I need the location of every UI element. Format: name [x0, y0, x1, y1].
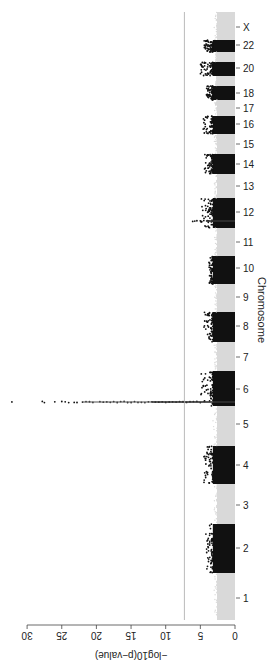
chromosome-band-4: [213, 446, 235, 484]
chromosome-band-17: [217, 100, 235, 116]
chromosome-band-20: [213, 62, 235, 76]
chromosome-band-18: [213, 86, 235, 100]
chromosome-band-10: [213, 256, 235, 284]
y-tick-label: 10: [160, 630, 172, 641]
x-tick-label-chr14: 14: [243, 159, 255, 170]
x-tick-label-chr5: 5: [243, 419, 249, 430]
x-tick-label-chr3: 3: [243, 500, 249, 511]
chromosome-band-22: [213, 40, 235, 52]
chromosome-band-16: [213, 116, 235, 134]
chromosome-band-21: [217, 52, 235, 62]
x-tick-label-chr8: 8: [243, 321, 249, 332]
x-tick-label-chr22: 22: [243, 40, 255, 51]
y-axis-label: −log10(p−value): [95, 650, 167, 661]
y-axis: 051015202530: [21, 625, 238, 641]
x-tick-label-chr18: 18: [243, 88, 255, 99]
chromosome-band-14: [213, 154, 235, 174]
chromosome-band-7: [217, 342, 235, 371]
x-tick-label-chr20: 20: [243, 63, 255, 74]
x-tick-label-chr2: 2: [243, 543, 249, 554]
data-points: [11, 12, 235, 616]
manhattan-plot: 051015202530 123456789101112131415161718…: [0, 0, 279, 666]
x-tick-label-chr13: 13: [243, 181, 255, 192]
y-tick-label: 30: [21, 630, 33, 641]
chromosome-band-19: [217, 76, 235, 86]
y-tick-label: 15: [125, 630, 137, 641]
chromosome-band-13: [217, 174, 235, 198]
x-tick-label-chr1: 1: [243, 593, 249, 604]
x-tick-label-chr6: 6: [243, 384, 249, 395]
y-tick-label: 0: [232, 630, 238, 641]
chromosome-band-2: [213, 524, 235, 573]
x-tick-label-chr17: 17: [243, 103, 255, 114]
chromosome-band-6: [213, 371, 235, 406]
chromosome-band-11: [217, 228, 235, 256]
chromosome-band-9: [217, 284, 235, 312]
x-tick-label-chr11: 11: [243, 237, 254, 248]
x-axis: 1234567891011121314151617182022X: [236, 22, 255, 604]
chromosome-band-15: [217, 134, 235, 154]
x-tick-label-chr9: 9: [243, 292, 249, 303]
y-tick-label: 25: [56, 630, 68, 641]
y-tick-label: 20: [90, 630, 102, 641]
chromosome-band-1: [217, 573, 235, 620]
chromosome-band-X: [217, 12, 235, 40]
chromosome-band-12: [213, 198, 235, 228]
x-tick-label-chrX: X: [243, 22, 250, 33]
x-axis-label: Chromosome: [256, 277, 268, 343]
x-tick-label-chr12: 12: [243, 207, 255, 218]
chromosome-band-8: [213, 312, 235, 342]
x-tick-label-chr15: 15: [243, 139, 255, 150]
chart-canvas: 051015202530 123456789101112131415161718…: [0, 0, 279, 666]
chromosome-band-3: [217, 484, 235, 524]
y-tick-label: 5: [197, 630, 203, 641]
x-tick-label-chr16: 16: [243, 119, 255, 130]
chromosome-band-5: [217, 406, 235, 446]
x-tick-label-chr4: 4: [243, 460, 249, 471]
x-tick-label-chr10: 10: [243, 263, 255, 274]
x-tick-label-chr7: 7: [243, 352, 249, 363]
